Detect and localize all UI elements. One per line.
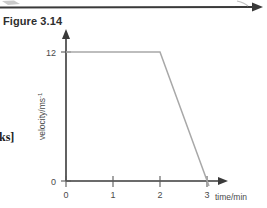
x-tick-label-2: 2 — [157, 190, 162, 200]
velocity-time-chart: 12 0 0 1 2 3 velocity/ms-1 time/min — [0, 28, 267, 208]
x-axis — [66, 177, 228, 185]
previous-figure-arrow-remnant — [0, 0, 267, 14]
x-tick-label-0: 0 — [63, 190, 68, 200]
y-axis-label-text: velocity/ms — [37, 98, 47, 140]
y-axis-label-exponent: -1 — [37, 92, 43, 98]
x-tick-label-3: 3 — [204, 190, 209, 200]
x-tick-label-1: 1 — [110, 190, 115, 200]
y-tick-label-0: 0 — [51, 177, 56, 187]
figure-caption: Figure 3.14 — [3, 15, 62, 27]
x-axis-label: time/min — [215, 192, 247, 202]
y-axis-label: velocity/ms-1 — [37, 92, 47, 140]
y-tick-label-12: 12 — [46, 48, 56, 58]
velocity-data-line — [66, 52, 209, 186]
